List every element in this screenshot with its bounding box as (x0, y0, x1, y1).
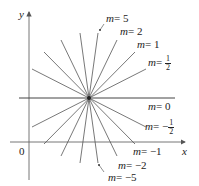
var-m: m (137, 38, 145, 50)
x-axis-label: x (182, 146, 187, 157)
var-m: m (108, 171, 116, 183)
var-m: m (148, 56, 156, 68)
fraction: 12 (165, 55, 171, 72)
origin-label: 0 (19, 146, 25, 157)
var-m: m (133, 145, 141, 157)
leader-m-neg5 (99, 165, 104, 172)
var-m: m (118, 159, 126, 171)
label-m-1: m= 1 (137, 39, 159, 50)
label-value: = −5 (116, 171, 137, 183)
label-m-neg5: m= −5 (108, 172, 137, 183)
frac-den: 2 (169, 128, 173, 136)
y-axis-label: y (19, 9, 24, 20)
label-m-5: m= 5 (106, 13, 128, 24)
label-value: = 2 (128, 25, 142, 37)
label-m-neg1: m= −1 (133, 146, 162, 157)
label-value: = 1 (145, 38, 159, 50)
var-m: m (106, 12, 114, 24)
label-m-neghalf: m= −12 (145, 119, 174, 136)
var-m: m (148, 100, 156, 112)
slope-family-diagram (0, 0, 199, 186)
frac-den: 2 (166, 64, 170, 72)
label-m-0: m= 0 (148, 101, 170, 112)
label-value: = −1 (141, 145, 162, 157)
leader-dot-m-5 (99, 29, 101, 31)
label-m-2: m= 2 (120, 26, 142, 37)
label-value: = − (153, 120, 168, 132)
label-m-half: m= 12 (148, 55, 171, 72)
leader-dot-m-neg5 (98, 164, 100, 166)
leader-m-5 (100, 24, 104, 30)
label-m-neg2: m= −2 (118, 160, 147, 171)
center-point (87, 96, 91, 100)
var-m: m (145, 120, 153, 132)
var-m: m (120, 25, 128, 37)
label-value: = −2 (126, 159, 147, 171)
label-value: = 5 (114, 12, 128, 24)
label-value: = (156, 56, 165, 68)
label-value: = 0 (156, 100, 170, 112)
fraction: 12 (168, 119, 174, 136)
